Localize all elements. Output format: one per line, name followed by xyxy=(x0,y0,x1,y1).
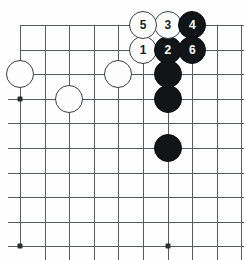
stone-label-move-4: 4 xyxy=(189,19,195,31)
stone-label-move-1: 1 xyxy=(140,44,146,56)
stone-label-move-5: 5 xyxy=(140,19,146,31)
stone-black-stone-c xyxy=(154,134,182,162)
stone-black-stone-a xyxy=(154,60,182,88)
stone-white-stone-b xyxy=(55,85,83,113)
stone-move-5: 5 xyxy=(129,11,157,39)
stone-label-move-3: 3 xyxy=(164,19,170,31)
stone-move-6: 6 xyxy=(178,36,206,64)
stone-move-1: 1 xyxy=(129,36,157,64)
stone-black-stone-b xyxy=(154,85,182,113)
stone-move-4: 4 xyxy=(178,11,206,39)
stone-white-stone-c xyxy=(104,60,132,88)
go-board-diagram: 123456 xyxy=(0,0,244,260)
stone-white-stone-a xyxy=(6,60,34,88)
stone-label-move-6: 6 xyxy=(189,44,195,56)
board-stones: 123456 xyxy=(0,0,244,260)
stone-label-move-2: 2 xyxy=(164,44,170,56)
